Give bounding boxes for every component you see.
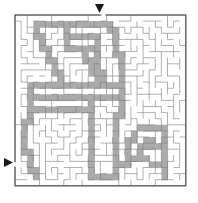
maze-grid[interactable] — [0, 0, 198, 203]
maze-page — [0, 0, 198, 203]
